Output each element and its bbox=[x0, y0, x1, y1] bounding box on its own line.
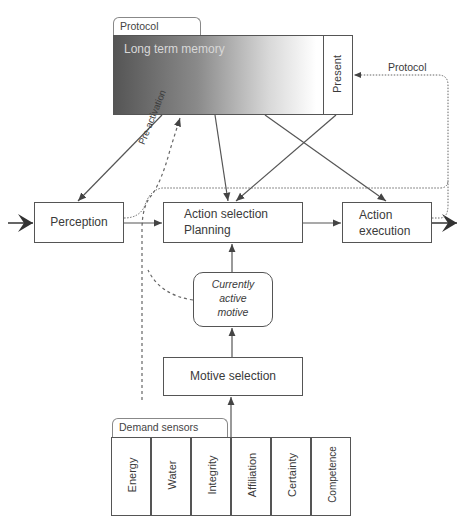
sensor-label: Certainty bbox=[286, 445, 298, 505]
long-term-memory-label: Long term memory bbox=[124, 42, 225, 56]
planning-label: Planning bbox=[184, 223, 231, 237]
present-memory-box: Present bbox=[323, 35, 353, 115]
sensor-label: Affiliation bbox=[246, 445, 258, 505]
demand-sensors-label: Demand sensors bbox=[119, 421, 198, 433]
currently-label: Currently bbox=[194, 278, 272, 290]
sensor-integrity: Integrity bbox=[191, 437, 231, 516]
sensor-energy: Energy bbox=[111, 437, 151, 516]
motive-selection-box: Motive selection bbox=[163, 357, 303, 396]
active-label: active bbox=[194, 292, 272, 304]
sensor-certainty: Certainty bbox=[271, 437, 311, 516]
long-term-memory-box: Long term memory bbox=[113, 35, 353, 115]
perception-label: Perception bbox=[35, 215, 123, 229]
action-selection-label: Action selection bbox=[184, 207, 268, 221]
sensor-label: Water bbox=[166, 445, 178, 505]
sensor-water: Water bbox=[151, 437, 191, 516]
sensor-affiliation: Affiliation bbox=[231, 437, 271, 516]
motive-selection-label: Motive selection bbox=[164, 369, 302, 383]
currently-active-motive-box: Currently active motive bbox=[193, 272, 273, 327]
sensor-competence: Competence bbox=[311, 437, 351, 516]
protocol-memory-tab: Protocol memory bbox=[113, 17, 201, 36]
action-label: Action bbox=[359, 208, 392, 222]
sensor-label: Energy bbox=[126, 445, 138, 505]
perception-box: Perception bbox=[34, 202, 124, 243]
action-selection-box: Action selection Planning bbox=[163, 202, 303, 243]
sensor-label: Integrity bbox=[206, 445, 218, 505]
action-execution-box: Action execution bbox=[342, 202, 432, 243]
protocol-arrow-label: Protocol bbox=[388, 61, 427, 73]
execution-label: execution bbox=[359, 224, 410, 238]
present-label: Present bbox=[331, 49, 343, 99]
motive-label: motive bbox=[194, 306, 272, 318]
demand-sensors-tab: Demand sensors bbox=[112, 418, 228, 438]
sensor-label: Competence bbox=[327, 445, 338, 505]
